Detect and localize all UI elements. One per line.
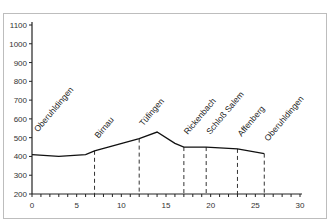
y-tick-label: 1000 (9, 40, 27, 49)
y-tick-label: 400 (14, 152, 28, 161)
y-tick-label: 900 (14, 59, 28, 68)
place-label: Oberuhldingen (32, 84, 76, 133)
elevation-line (32, 132, 264, 156)
x-tick-label: 5 (74, 201, 79, 210)
y-tick-label: 200 (14, 190, 28, 199)
x-tick-label: 20 (206, 201, 215, 210)
x-tick-label: 0 (30, 201, 35, 210)
x-tick-label: 15 (162, 201, 171, 210)
x-tick-label: 25 (251, 201, 260, 210)
place-label: Birnau (92, 115, 116, 140)
y-tick-label: 700 (14, 96, 28, 105)
elevation-chart: 2003004005006007008009001000110005101520… (0, 0, 330, 221)
x-tick-label: 30 (296, 201, 305, 210)
y-tick-label: 600 (14, 115, 28, 124)
place-label: Affenberg (235, 103, 266, 138)
y-tick-label: 1100 (10, 21, 28, 30)
y-tick-label: 800 (14, 77, 28, 86)
place-label: Tüfingen (137, 96, 166, 128)
y-tick-label: 300 (14, 171, 28, 180)
place-label: Oberuhldingen (262, 94, 306, 143)
x-tick-label: 10 (117, 201, 126, 210)
y-tick-label: 500 (14, 134, 28, 143)
